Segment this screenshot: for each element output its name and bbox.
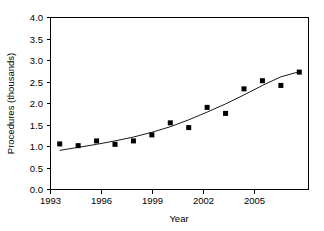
y-axis-ticks: [47, 18, 51, 190]
y-tick-label-2.5: 2.5: [30, 77, 43, 88]
x-tick-label-2002: 2002: [193, 195, 214, 206]
x-axis-title: Year: [169, 213, 188, 224]
chart-figure: 4.0 3.5 3.0 2.5 2.0 1.5 1.0 0.5 0.0 1993…: [0, 0, 324, 231]
y-tick-label-0.5: 0.5: [30, 163, 43, 174]
x-axis-tick-labels: 1993 1996 1999 2002 2005: [40, 195, 265, 206]
data-point: [113, 142, 118, 147]
y-tick-label-0.0: 0.0: [30, 184, 43, 195]
y-tick-label-4.0: 4.0: [30, 12, 43, 23]
x-tick-label-1999: 1999: [142, 195, 163, 206]
data-point: [186, 125, 191, 130]
x-tick-label-2005: 2005: [244, 195, 265, 206]
data-point-markers: [57, 70, 302, 149]
data-point: [223, 111, 228, 116]
data-point: [168, 120, 173, 125]
data-point: [260, 78, 265, 83]
x-tick-label-1996: 1996: [91, 195, 112, 206]
procedures-scatter-chart: 4.0 3.5 3.0 2.5 2.0 1.5 1.0 0.5 0.0 1993…: [0, 0, 324, 231]
x-tick-label-1993: 1993: [40, 195, 61, 206]
y-axis-tick-labels: 4.0 3.5 3.0 2.5 2.0 1.5 1.0 0.5 0.0: [30, 12, 43, 195]
data-point: [57, 141, 62, 146]
data-point: [278, 83, 283, 88]
y-tick-label-1.0: 1.0: [30, 141, 43, 152]
data-point: [205, 105, 210, 110]
y-tick-label-1.5: 1.5: [30, 120, 43, 131]
data-point: [242, 86, 247, 91]
y-tick-label-3.0: 3.0: [30, 55, 43, 66]
data-point: [94, 138, 99, 143]
data-point: [149, 132, 154, 137]
data-point: [131, 138, 136, 143]
data-point: [76, 143, 81, 148]
y-tick-label-2.0: 2.0: [30, 98, 43, 109]
x-axis-ticks: [51, 190, 255, 194]
y-tick-label-3.5: 3.5: [30, 34, 43, 45]
y-axis-title: Procedures (thousands): [5, 53, 16, 154]
data-point: [297, 70, 302, 75]
axis-lines: [51, 18, 309, 190]
